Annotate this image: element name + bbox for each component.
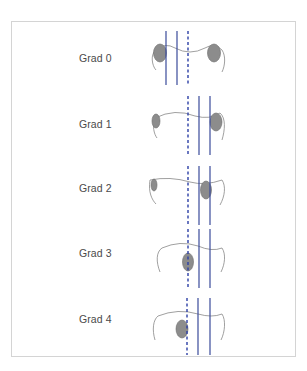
grade-1-illustration [152,96,224,155]
grade-4-illustration [153,298,224,355]
grading-diagram [0,0,307,371]
grade-3-illustration [157,229,224,288]
grade-0-illustration [152,31,224,85]
grade-2-illustration [149,166,224,225]
